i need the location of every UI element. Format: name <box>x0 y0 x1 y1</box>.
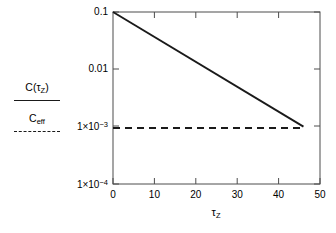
y-axis-ticks <box>113 12 119 184</box>
y-tick-3-mantissa: 1×10 <box>77 179 100 190</box>
x-tick-label-5: 50 <box>305 189 335 200</box>
x-tick-label-3: 30 <box>222 189 252 200</box>
x-tick-label-4: 40 <box>264 189 294 200</box>
chart-figure: 0.1 0.01 1×10−3 1×10−4 0 10 20 30 40 50 … <box>0 0 336 233</box>
y-tick-2-exponent: −3 <box>99 120 108 129</box>
legend-item-ceff: Ceff <box>13 112 61 132</box>
x-axis-title-sub: Z <box>216 211 221 220</box>
x-axis-ticks-top <box>154 12 278 18</box>
y-tick-2-mantissa: 1×10 <box>77 121 100 132</box>
plot-frame <box>113 12 320 184</box>
legend-ceff-c: C <box>29 112 37 124</box>
y-tick-label-1: 0.01 <box>63 63 108 74</box>
x-tick-label-2: 20 <box>181 189 211 200</box>
x-tick-label-0: 0 <box>98 189 128 200</box>
x-axis-ticks <box>113 178 320 184</box>
legend-ctau-c: C( <box>25 81 36 93</box>
x-tick-label-1: 10 <box>139 189 169 200</box>
legend-label-ctau: C(τZ) <box>13 81 61 97</box>
y-axis-ticks-right <box>314 12 320 184</box>
x-axis-title: τZ <box>186 206 246 220</box>
y-tick-3-exponent: −4 <box>99 178 108 187</box>
legend-swatch-dashed-line <box>14 131 60 132</box>
legend-ceff-sub: eff <box>37 117 45 126</box>
y-tick-label-0: 0.1 <box>63 6 108 17</box>
legend-label-ceff: Ceff <box>13 112 61 128</box>
legend-swatch-solid-line <box>14 100 60 101</box>
legend-ctau-close: ) <box>45 81 49 93</box>
series-line-ctau <box>113 12 303 127</box>
legend-item-ctau: C(τZ) <box>13 81 61 101</box>
